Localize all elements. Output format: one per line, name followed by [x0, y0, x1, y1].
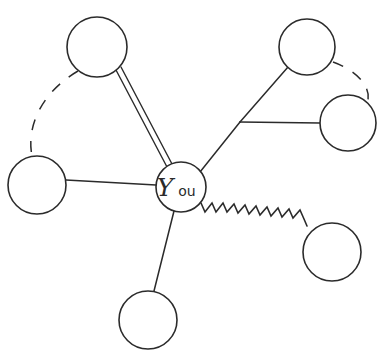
node-top-left[interactable]	[67, 17, 127, 77]
node-left[interactable]	[8, 156, 66, 214]
edge-junction-to-right	[240, 122, 320, 123]
diagram-canvas: Y ou	[0, 0, 385, 363]
node-top-right[interactable]	[279, 19, 335, 75]
edge-center-to-bottom-right-zigzag	[201, 203, 307, 226]
edge-junction-to-top-right	[240, 67, 288, 122]
center-node-label-initial: Y	[157, 173, 176, 202]
center-node-label-rest: ou	[178, 183, 195, 199]
node-center-you[interactable]: Y ou	[156, 162, 206, 212]
edge-center-to-junction	[200, 122, 240, 172]
node-right[interactable]	[320, 95, 376, 151]
network-diagram: Y ou	[0, 0, 385, 363]
node-bottom-right[interactable]	[303, 223, 361, 281]
edge-center-to-left	[66, 180, 156, 185]
node-bottom[interactable]	[119, 291, 177, 349]
edge-center-to-bottom	[154, 211, 174, 291]
dashed-arc-top-left-to-left	[31, 71, 78, 156]
edge-center-to-top-left	[116, 67, 172, 167]
